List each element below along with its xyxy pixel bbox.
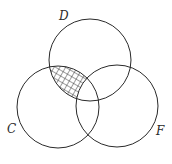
label-c: C	[7, 122, 16, 136]
venn-diagram: D C F	[0, 0, 172, 164]
label-f: F	[155, 124, 165, 138]
venn-svg: D C F	[0, 0, 172, 164]
circle-f	[76, 65, 158, 147]
label-d: D	[58, 9, 69, 23]
